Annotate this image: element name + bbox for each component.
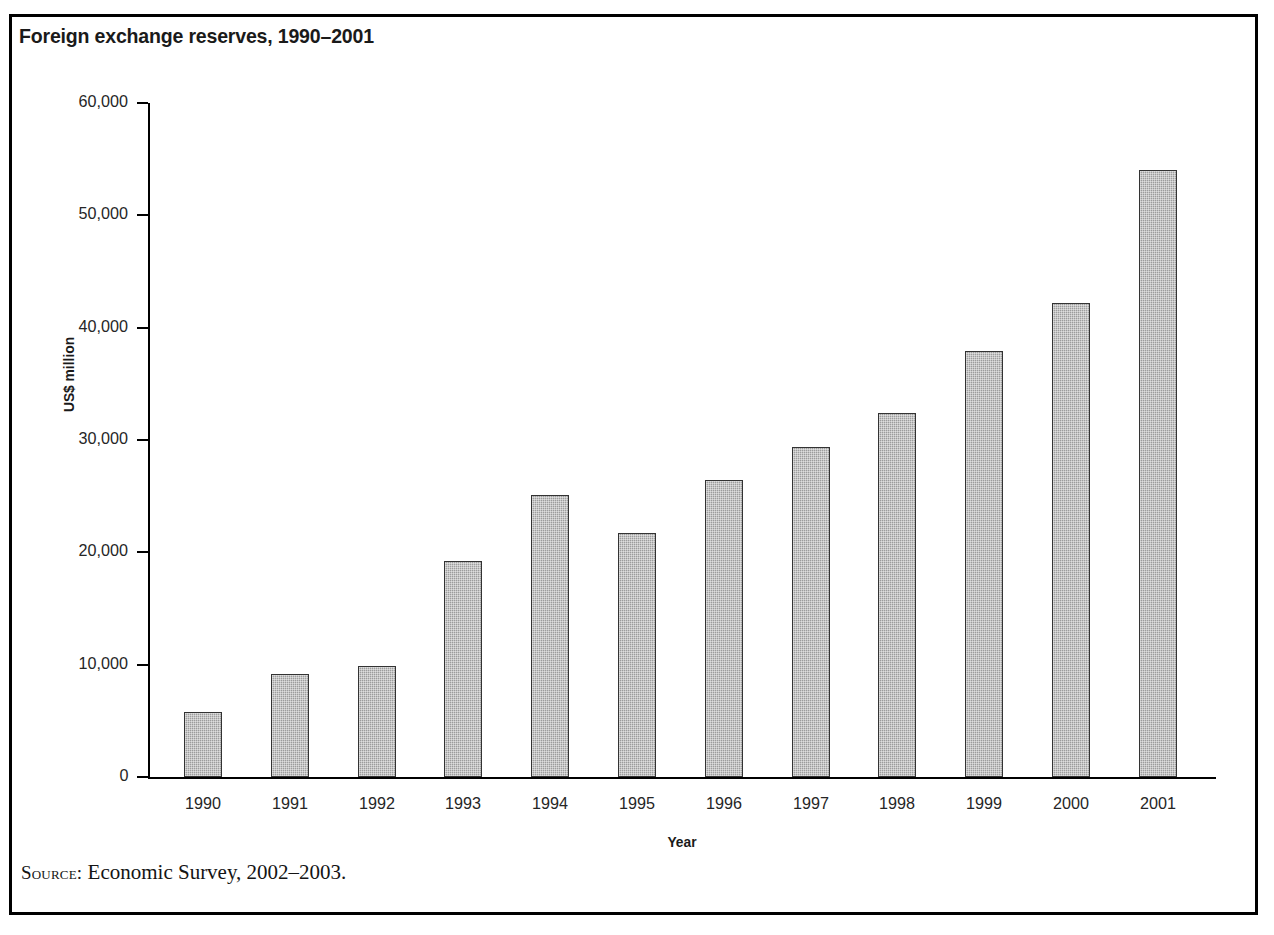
y-axis-tick-label-text: 30,000	[79, 429, 128, 449]
bar	[618, 533, 656, 777]
y-axis-tick-label-text: 20,000	[79, 541, 128, 561]
y-axis-tick	[137, 439, 148, 441]
bar	[358, 666, 396, 777]
x-axis-tick-label: 1996	[681, 794, 767, 814]
bar	[792, 447, 830, 777]
y-axis-line	[148, 103, 150, 779]
bar	[531, 495, 569, 777]
x-axis-tick-label: 1995	[594, 794, 680, 814]
y-axis-tick-label-text: 10,000	[79, 654, 128, 674]
y-axis-tick-label: 10,000	[0, 654, 128, 674]
source-label: Source:	[21, 862, 82, 883]
x-axis-tick-label: 2001	[1115, 794, 1201, 814]
y-axis-tick	[137, 214, 148, 216]
x-axis-tick-label: 1997	[768, 794, 854, 814]
y-axis-tick	[137, 102, 148, 104]
bar	[1139, 170, 1177, 777]
source-text: Economic Survey, 2002–2003.	[88, 860, 347, 884]
x-axis-title: Year	[191, 833, 1174, 850]
x-axis-line	[148, 777, 1216, 779]
x-axis-tick-label: 1999	[941, 794, 1027, 814]
x-axis-tick-label: 1990	[160, 794, 246, 814]
y-axis-tick	[137, 327, 148, 329]
y-axis-title: US$ million	[60, 301, 77, 448]
bar	[965, 351, 1003, 777]
y-axis-tick-label-text: 0	[119, 766, 128, 786]
y-axis-tick-label: 50,000	[0, 204, 128, 224]
x-axis-tick-label: 1998	[855, 794, 941, 814]
y-axis-tick	[137, 664, 148, 666]
y-axis-tick-label: 0	[0, 766, 128, 786]
y-axis-tick-label-text: 60,000	[79, 92, 128, 112]
y-axis-tick-label-text: 50,000	[79, 204, 128, 224]
y-axis-tick	[137, 551, 148, 553]
bar	[1052, 303, 1090, 777]
bar	[444, 561, 482, 777]
y-axis-tick	[137, 776, 148, 778]
x-axis-tick-label: 2000	[1028, 794, 1114, 814]
bar	[271, 674, 309, 777]
bar	[705, 480, 743, 777]
y-axis-tick-label: 20,000	[0, 541, 128, 561]
source-note: Source: Economic Survey, 2002–2003.	[21, 860, 346, 885]
x-axis-tick-label: 1994	[507, 794, 593, 814]
plot-area: 010,00020,00030,00040,00050,00060,000 19…	[0, 0, 1249, 901]
bar	[184, 712, 222, 777]
x-axis-tick-label: 1991	[247, 794, 333, 814]
y-axis-tick-label-text: 40,000	[79, 317, 128, 337]
bar	[878, 413, 916, 777]
x-axis-tick-label: 1992	[334, 794, 420, 814]
y-axis-tick-label: 60,000	[0, 92, 128, 112]
x-axis-tick-label: 1993	[421, 794, 507, 814]
